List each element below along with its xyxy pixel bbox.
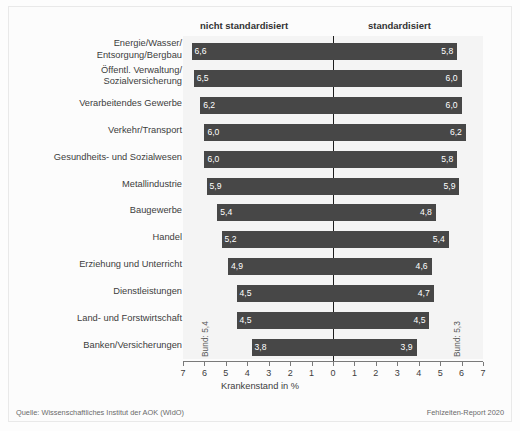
bar-row: 5,95,9 xyxy=(183,175,483,200)
axis-tick-label: 3 xyxy=(387,368,407,378)
axis-tick-label: 2 xyxy=(366,368,386,378)
axis-tick-label: 5 xyxy=(430,368,450,378)
axis-tick xyxy=(376,362,377,366)
bar-value-left: 4,5 xyxy=(240,286,252,301)
bar-value-left: 4,5 xyxy=(240,313,252,328)
axis-tick-label: 1 xyxy=(302,368,322,378)
bar-row: 6,06,2 xyxy=(183,121,483,146)
category-label: Land- und Forstwirtschaft xyxy=(7,313,182,325)
axis-tick-label: 7 xyxy=(473,368,493,378)
bar-value-right: 4,5 xyxy=(333,313,425,328)
axis-tick-label: 2 xyxy=(280,368,300,378)
bar-row: 4,54,5 xyxy=(183,309,483,334)
axis-tick-label: 7 xyxy=(173,368,193,378)
bar-nicht-standardisiert xyxy=(204,151,333,168)
category-label: Gesundheits- und Sozialwesen xyxy=(7,152,182,164)
x-axis: 765432101234567 xyxy=(183,361,483,370)
column-header-left: nicht standardisiert xyxy=(200,20,288,31)
bar-nicht-standardisiert xyxy=(194,70,333,87)
axis-tick xyxy=(483,362,484,366)
category-label: Verarbeitendes Gewerbe xyxy=(7,98,182,110)
bar-nicht-standardisiert xyxy=(207,178,333,195)
bar-value-right: 6,2 xyxy=(333,125,462,140)
bund-annotation-right: Bund: 5,3 xyxy=(452,321,462,357)
axis-tick xyxy=(419,362,420,366)
bar-row: 6,26,0 xyxy=(183,94,483,119)
bar-row: 6,05,8 xyxy=(183,148,483,173)
category-label: Energie/Wasser/ Entsorgung/Bergbau xyxy=(7,38,182,61)
category-label: Banken/Versicherungen xyxy=(7,340,182,352)
bar-nicht-standardisiert xyxy=(222,231,333,248)
axis-tick xyxy=(183,362,184,366)
bar-value-right: 5,4 xyxy=(333,232,445,247)
category-label: Erziehung und Unterricht xyxy=(7,259,182,271)
category-label: Verkehr/Transport xyxy=(7,125,182,137)
axis-tick xyxy=(333,362,334,366)
bar-value-left: 5,2 xyxy=(225,232,237,247)
bar-nicht-standardisiert xyxy=(228,258,333,275)
axis-tick xyxy=(204,362,205,366)
axis-tick xyxy=(440,362,441,366)
axis-tick xyxy=(290,362,291,366)
axis-tick-label: 0 xyxy=(323,368,343,378)
bar-row: 6,56,0 xyxy=(183,67,483,92)
bar-value-right: 5,8 xyxy=(333,44,453,59)
report-note: Fehlzeiten-Report 2020 xyxy=(427,408,504,417)
bar-value-right: 4,8 xyxy=(333,205,432,220)
bar-row: 4,54,7 xyxy=(183,282,483,307)
axis-tick xyxy=(226,362,227,366)
axis-tick xyxy=(354,362,355,366)
category-label: Öffentl. Verwaltung/ Sozialversicherung xyxy=(7,65,182,88)
bar-value-left: 5,4 xyxy=(220,205,232,220)
category-label: Metallindustrie xyxy=(7,179,182,191)
axis-tick-label: 4 xyxy=(237,368,257,378)
axis-tick-label: 3 xyxy=(259,368,279,378)
x-axis-title: Krankenstand in % xyxy=(0,381,520,391)
bar-value-right: 4,7 xyxy=(333,286,430,301)
bar-value-left: 6,0 xyxy=(207,125,219,140)
source-note: Quelle: Wissenschaftliches Institut der … xyxy=(16,408,184,417)
axis-tick xyxy=(247,362,248,366)
axis-tick xyxy=(312,362,313,366)
axis-tick xyxy=(462,362,463,366)
bar-value-right: 4,6 xyxy=(333,259,428,274)
axis-tick-label: 1 xyxy=(344,368,364,378)
bar-value-left: 6,5 xyxy=(197,71,209,86)
bar-row: 5,44,8 xyxy=(183,201,483,226)
bar-value-left: 5,9 xyxy=(210,179,222,194)
bar-value-right: 6,0 xyxy=(333,71,458,86)
axis-tick-label: 6 xyxy=(194,368,214,378)
bar-value-right: 5,8 xyxy=(333,152,453,167)
bar-row: 3,83,9 xyxy=(183,336,483,361)
bar-value-left: 6,0 xyxy=(207,152,219,167)
category-label: Baugewerbe xyxy=(7,205,182,217)
axis-tick xyxy=(269,362,270,366)
axis-tick-label: 6 xyxy=(452,368,472,378)
bar-row: 5,25,4 xyxy=(183,228,483,253)
category-label: Handel xyxy=(7,232,182,244)
bar-nicht-standardisiert xyxy=(200,97,333,114)
bar-nicht-standardisiert xyxy=(204,124,333,141)
column-header-right: standardisiert xyxy=(368,20,431,31)
axis-tick-label: 5 xyxy=(216,368,236,378)
chart-page: nicht standardisiert standardisiert 6,65… xyxy=(0,0,520,431)
bund-annotation-left: Bund: 5,4 xyxy=(200,321,210,357)
bar-row: 6,65,8 xyxy=(183,40,483,65)
category-label: Dienstleistungen xyxy=(7,286,182,298)
bar-value-left: 6,2 xyxy=(203,98,215,113)
bar-row: 4,94,6 xyxy=(183,255,483,280)
axis-tick xyxy=(397,362,398,366)
bar-value-left: 6,6 xyxy=(195,44,207,59)
bar-value-right: 5,9 xyxy=(333,179,455,194)
axis-tick-label: 4 xyxy=(409,368,429,378)
bar-nicht-standardisiert xyxy=(192,43,333,60)
bar-value-left: 3,8 xyxy=(255,340,267,355)
bar-value-left: 4,9 xyxy=(231,259,243,274)
bar-value-right: 6,0 xyxy=(333,98,458,113)
bar-value-right: 3,9 xyxy=(333,340,413,355)
bar-nicht-standardisiert xyxy=(217,204,333,221)
plot-area: 6,65,86,56,06,26,06,06,26,05,85,95,95,44… xyxy=(183,36,483,359)
